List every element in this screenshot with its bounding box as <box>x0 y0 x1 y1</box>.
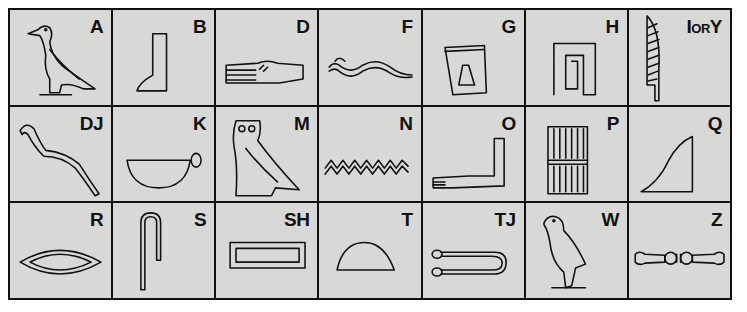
cell-w: W <box>526 203 627 298</box>
quail-chick-icon <box>526 203 627 298</box>
reed-leaf-icon <box>629 10 730 105</box>
cell-h: H <box>526 10 627 105</box>
basket-icon <box>113 107 214 202</box>
cell-d: D <box>216 10 317 105</box>
twisted-wick-icon <box>526 10 627 105</box>
stool-icon <box>526 107 627 202</box>
cell-q: Q <box>629 107 730 202</box>
cell-m: M <box>216 107 317 202</box>
cell-a: A <box>10 10 111 105</box>
cell-z: Z <box>629 203 730 298</box>
hieroglyph-chart: A B D F G H IORY <box>8 8 732 300</box>
folded-cloth-icon <box>113 203 214 298</box>
cell-n: N <box>319 107 420 202</box>
cell-r: R <box>10 203 111 298</box>
foot-icon <box>113 10 214 105</box>
cobra-icon <box>10 107 111 202</box>
pool-icon <box>216 203 317 298</box>
cell-p: P <box>526 107 627 202</box>
mouth-icon <box>10 203 111 298</box>
hand-icon <box>216 10 317 105</box>
owl-icon <box>216 107 317 202</box>
tethering-rope-icon <box>423 203 524 298</box>
bread-loaf-icon <box>319 203 420 298</box>
water-icon <box>319 107 420 202</box>
cell-i-or-y: IORY <box>629 10 730 105</box>
forearm-icon <box>423 107 524 202</box>
cell-g: G <box>423 10 524 105</box>
cell-t: T <box>319 203 420 298</box>
cell-s: S <box>113 203 214 298</box>
cell-k: K <box>113 107 214 202</box>
cell-tj: TJ <box>423 203 524 298</box>
horned-viper-icon <box>319 10 420 105</box>
cell-dj: DJ <box>10 107 111 202</box>
cell-b: B <box>113 10 214 105</box>
cell-sh: SH <box>216 203 317 298</box>
cell-f: F <box>319 10 420 105</box>
hill-slope-icon <box>629 107 730 202</box>
door-bolt-icon <box>629 203 730 298</box>
jar-stand-icon <box>423 10 524 105</box>
cell-o: O <box>423 107 524 202</box>
vulture-icon <box>10 10 111 105</box>
